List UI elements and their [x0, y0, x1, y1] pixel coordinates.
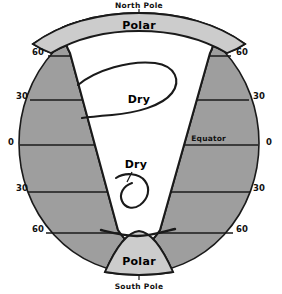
north-pole-label: North Pole — [115, 1, 163, 10]
south-polar-region-label: Polar — [122, 255, 156, 268]
dry-upper-label: Dry — [128, 93, 151, 106]
lat-label-left-60n: 60 — [32, 47, 44, 57]
lat-label-right-60s: 60 — [236, 224, 248, 234]
lat-label-right-60n: 60 — [236, 47, 248, 57]
lat-label-left-30s: 30 — [16, 183, 28, 193]
diagram-figure: North Pole South Pole Polar Polar Dry Dr… — [0, 0, 282, 294]
globe-diagram: North Pole South Pole Polar Polar Dry Dr… — [0, 0, 282, 294]
lat-label-left-60s: 60 — [32, 224, 44, 234]
dry-lower-label: Dry — [125, 158, 148, 171]
lat-label-left-30n: 30 — [16, 91, 28, 101]
lat-label-right-0: 0 — [266, 137, 272, 147]
lat-label-left-0: 0 — [8, 137, 14, 147]
lat-label-right-30s: 30 — [253, 183, 265, 193]
equator-label: Equator — [191, 134, 226, 143]
north-polar-region-label: Polar — [122, 19, 156, 32]
south-pole-label: South Pole — [115, 282, 164, 291]
lat-label-right-30n: 30 — [253, 91, 265, 101]
